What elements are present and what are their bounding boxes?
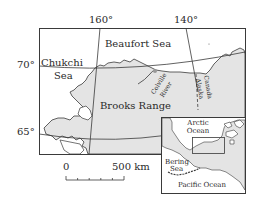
latitude-70-label: 70° [17, 60, 35, 70]
scale-start-label: 0 [63, 162, 69, 172]
beaufort-sea-label: Beaufort Sea [105, 39, 171, 49]
pacific-ocean-label: Pacific Ocean [178, 182, 226, 189]
brooks-range-label: Brooks Range [100, 101, 171, 111]
latitude-65-label: 65° [17, 127, 35, 137]
arctic-ocean-label-line2: Ocean [180, 128, 216, 135]
colville-delta [153, 69, 157, 73]
chukchi-sea-label-line2: Sea [54, 71, 73, 81]
scale-end-label: 500 km [112, 162, 150, 172]
longitude-140-label: 140° [174, 15, 198, 25]
chukchi-sea-label-line1: Chukchi [41, 58, 83, 68]
bering-sea-label-line2: Sea [170, 166, 183, 173]
longitude-160-label: 160° [89, 15, 113, 25]
scale-bar [66, 176, 124, 180]
arctic-ocean-label-line1: Arctic [180, 120, 216, 127]
